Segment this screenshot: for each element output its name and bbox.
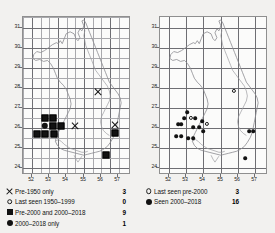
marker-filled-dot: [200, 119, 204, 123]
marker-filled-dot: [193, 116, 197, 120]
legend-count: 3: [122, 188, 126, 195]
marker-cross: [94, 88, 102, 96]
right-map-markers: [160, 17, 266, 173]
open-circle-icon: [4, 197, 15, 207]
marker-open-circle: [205, 122, 209, 126]
legend-row: Pre-1950 only 3: [4, 186, 136, 197]
legend-count: 1: [122, 220, 126, 227]
marker-filled-dot: [186, 136, 190, 140]
marker-filled-dot: [197, 125, 201, 129]
marker-filled-dot: [179, 122, 183, 126]
marker-filled-square: [34, 131, 41, 138]
marker-filled-square: [51, 131, 58, 138]
distribution-map-figure: 31 30 29 28 27 26 25 24 52 53 54 5: [0, 0, 275, 233]
legend-row: Seen 2000–2018 16: [143, 197, 273, 208]
legend-row: Pre-2000 and 2000–2018 9: [4, 207, 136, 218]
marker-filled-dot: [251, 129, 255, 133]
open-circle-icon: [143, 186, 154, 196]
marker-filled-square: [58, 123, 65, 130]
marker-filled-dot: [243, 156, 247, 160]
right-map-panel: 31 30 29 28 27 26 25 24 52 53 54 55: [137, 0, 274, 233]
cross-icon: [4, 186, 15, 196]
marker-filled-dot: [185, 110, 189, 114]
legend-count: 9: [122, 209, 126, 216]
marker-open-circle: [232, 89, 236, 93]
filled-circle-icon: [4, 218, 15, 228]
right-map-plot: [159, 16, 267, 174]
marker-filled-square: [50, 123, 57, 130]
legend-count: 3: [235, 188, 239, 195]
filled-circle-icon: [143, 197, 154, 207]
left-map-panel: 31 30 29 28 27 26 25 24 52 53 54 5: [0, 0, 137, 233]
marker-filled-square: [42, 115, 49, 122]
marker-filled-dot: [201, 129, 205, 133]
marker-cross: [111, 121, 119, 129]
left-map-plot: [22, 16, 130, 174]
marker-cross: [71, 122, 79, 130]
filled-square-icon: [4, 207, 15, 217]
left-legend: Pre-1950 only 3 Last seen 1950–1999 0 Pr…: [4, 186, 136, 228]
marker-filled-dot: [191, 125, 195, 129]
legend-row: Last seen pre-2000 3: [143, 186, 273, 197]
marker-filled-square: [112, 130, 119, 137]
marker-filled-dot: [191, 136, 195, 140]
legend-count: 0: [122, 198, 126, 205]
right-legend: Last seen pre-2000 3 Seen 2000–2018 16: [143, 186, 273, 207]
marker-filled-circle: [42, 123, 48, 129]
marker-filled-square: [42, 131, 49, 138]
marker-filled-dot: [174, 134, 178, 138]
marker-filled-square: [103, 152, 110, 159]
marker-filled-square: [50, 115, 57, 122]
legend-row: 2000–2018 only 1: [4, 218, 136, 229]
marker-filled-dot: [179, 134, 183, 138]
left-map-markers: [23, 17, 129, 173]
legend-row: Last seen 1950–1999 0: [4, 197, 136, 208]
legend-count: 16: [232, 198, 239, 205]
marker-filled-dot: [182, 116, 186, 120]
